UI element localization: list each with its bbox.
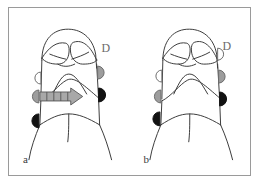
annotation-letter-d: D (222, 39, 231, 53)
cusp-left (42, 43, 69, 64)
central-fossa (58, 64, 75, 66)
root-branch-distal (220, 125, 232, 160)
panel-a: D a (9, 8, 130, 175)
marker-a-mesial-white (35, 72, 41, 84)
central-fossa (178, 64, 195, 66)
root-branch-center (188, 114, 189, 142)
panel-label-a: a (23, 154, 28, 165)
root-furcation-contour (160, 114, 220, 125)
root-branch-mesial (149, 125, 160, 160)
marker-b-mesial-white (155, 70, 161, 82)
panel-b: D b (130, 8, 251, 175)
root-branch-mesial (29, 125, 40, 160)
root-trunk-left (160, 101, 161, 125)
groove-line-right (72, 52, 89, 59)
groove-line-left (170, 54, 186, 59)
cervical-contour (161, 79, 219, 101)
root-trunk-left (40, 101, 41, 125)
root-trunk-right (99, 100, 100, 125)
root-branch-center (68, 114, 69, 142)
panel-label-b: b (144, 154, 150, 165)
marker-b-distal-gray (218, 70, 224, 83)
marker-a-distal-gray (98, 66, 104, 79)
marker-b-distal-black (219, 92, 226, 106)
arrow-body (40, 88, 83, 105)
cusp-left (162, 43, 189, 64)
figure-root: D a (0, 0, 260, 185)
groove-line-left (50, 54, 66, 59)
panel-a-drawing: D (9, 8, 130, 175)
marker-a-mesial-black (32, 114, 39, 128)
marker-b-mesial-black (152, 112, 159, 126)
marker-b-mesial-gray (154, 90, 160, 103)
root-furcation-contour (40, 114, 100, 125)
annotation-letter-d: D (102, 41, 111, 55)
penetration-arrow (40, 88, 83, 105)
panel-b-drawing: D (130, 8, 251, 175)
marker-a-distal-black (99, 88, 106, 102)
root-branch-distal (100, 125, 112, 160)
marker-a-mesial-gray (32, 90, 38, 103)
figure-frame: D a (8, 7, 251, 176)
groove-line-right (192, 52, 209, 59)
